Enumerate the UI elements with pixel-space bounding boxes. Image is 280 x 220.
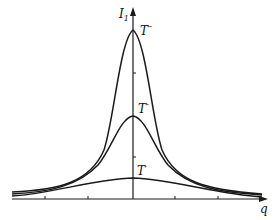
curve-label-t-double-prime: T″ <box>138 103 149 115</box>
y-axis-arrow-icon <box>130 7 136 16</box>
curve-label-t-triple-prime: T‴ <box>140 25 152 37</box>
x-axis-label: q <box>260 203 268 215</box>
y-axis-label: I1 <box>119 8 129 23</box>
curve-t-double-prime <box>12 116 262 195</box>
curve-label-t-prime: T′ <box>137 165 147 177</box>
